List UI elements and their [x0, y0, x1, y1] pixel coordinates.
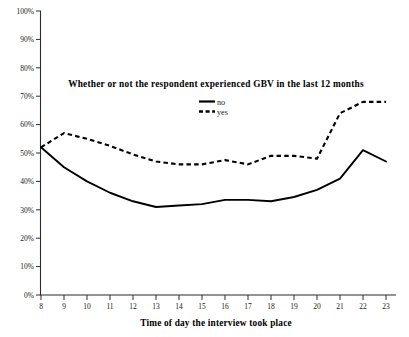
x-axis-tick-labels: 891011121314151617181920212223 — [39, 302, 390, 311]
x-tick-label: 20 — [313, 302, 321, 311]
y-tick-label: 80% — [20, 64, 34, 73]
x-tick-label: 13 — [152, 302, 160, 311]
y-tick-label: 30% — [20, 206, 34, 215]
chart-title: Whether or not the respondent experience… — [68, 79, 364, 89]
y-tick-label: 40% — [20, 177, 34, 186]
line-chart: 0%10%20%30%40%50%60%70%80%90%100% 891011… — [0, 0, 409, 337]
x-tick-label: 21 — [336, 302, 344, 311]
x-tick-label: 18 — [267, 302, 275, 311]
x-axis-tick-marks — [41, 295, 386, 300]
legend-label-no: no — [217, 98, 225, 107]
x-tick-label: 10 — [83, 302, 91, 311]
y-tick-label: 60% — [20, 120, 34, 129]
x-tick-label: 22 — [359, 302, 367, 311]
x-tick-label: 15 — [198, 302, 206, 311]
y-tick-label: 90% — [20, 35, 34, 44]
x-tick-label: 9 — [62, 302, 66, 311]
x-tick-label: 19 — [290, 302, 298, 311]
x-tick-label: 23 — [382, 302, 390, 311]
series-line-no — [41, 147, 386, 207]
x-tick-label: 17 — [244, 302, 252, 311]
x-tick-label: 14 — [175, 302, 183, 311]
legend: no yes — [199, 98, 228, 117]
x-tick-label: 8 — [39, 302, 43, 311]
y-tick-label: 100% — [17, 7, 35, 16]
y-axis-tick-labels: 0%10%20%30%40%50%60%70%80%90%100% — [17, 7, 35, 300]
chart-figure: 0%10%20%30%40%50%60%70%80%90%100% 891011… — [0, 0, 409, 337]
x-tick-label: 12 — [129, 302, 137, 311]
y-tick-label: 20% — [20, 234, 34, 243]
x-tick-label: 16 — [221, 302, 229, 311]
y-tick-label: 50% — [20, 149, 34, 158]
y-tick-label: 0% — [24, 291, 34, 300]
y-tick-label: 70% — [20, 92, 34, 101]
x-tick-label: 11 — [106, 302, 113, 311]
x-axis-title: Time of day the interview took place — [140, 318, 292, 328]
legend-label-yes: yes — [217, 108, 228, 117]
y-tick-label: 10% — [20, 262, 34, 271]
